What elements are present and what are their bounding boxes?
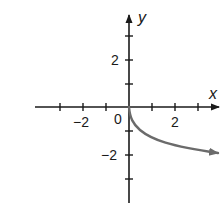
x-axis-label: x [208,85,218,102]
origin-label: 0 [114,111,122,127]
graph: y x 0 −2 2 2 −2 [0,0,224,210]
y-tick-label-2: 2 [111,52,119,68]
x-tick-label-2: 2 [171,114,179,130]
y-tick-label-neg2: −2 [101,147,117,163]
x-tick-label-neg2: −2 [73,114,89,130]
y-axis-label: y [137,9,147,26]
